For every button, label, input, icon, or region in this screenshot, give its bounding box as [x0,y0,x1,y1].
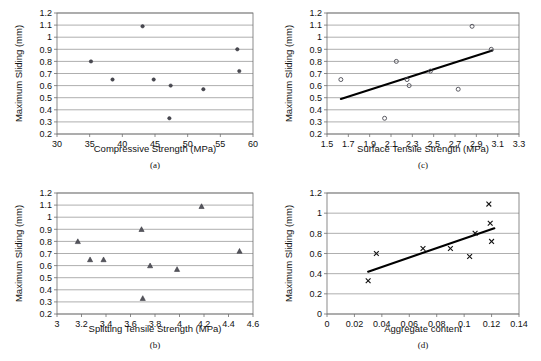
y-axis-title: Maximum Sliding (mm) [13,205,24,302]
y-tick-label: 0.7 [39,69,52,79]
data-series [89,25,241,120]
panel-caption: (d) [418,340,429,350]
x-tick-label: 3.3 [513,139,526,149]
y-tick-label: 1 [317,32,322,42]
x-axis-title: Compressive Strength (MPa) [94,143,216,154]
y-tick-label: 0.5 [39,93,52,103]
x-axis-title: Surface Tensile Strength (MPa) [357,143,489,154]
panel-d-plot: 00.20.40.60.811.200.020.040.060.080.10.1… [270,180,541,361]
y-tick-label: 1.1 [39,20,52,30]
y-tick-label: 0.4 [39,105,52,115]
data-point [339,78,343,82]
panel-caption: (c) [418,160,428,170]
panel-caption: (b) [150,340,161,350]
y-tick-label: 0.4 [309,269,322,279]
y-tick-label: 0.2 [39,129,52,139]
data-series [366,202,494,283]
data-point [101,257,106,262]
y-tick-label: 1.2 [309,8,322,18]
trend-line [341,51,492,99]
grid-lines [57,13,253,134]
y-tick-label: 0.7 [309,69,322,79]
y-tick-label: 0.4 [39,285,52,295]
x-tick-label: 3.1 [491,139,504,149]
y-tick-label: 0.8 [309,57,322,67]
y-tick-label: 0.8 [39,237,52,247]
y-tick-label: 0.5 [39,273,52,283]
data-point [236,48,239,51]
x-tick-label: 4.4 [222,319,235,329]
y-tick-label: 0.3 [39,297,52,307]
y-tick-label: 1 [47,32,52,42]
x-tick-label: 0 [324,319,329,329]
x-tick-label: 3.2 [75,319,88,329]
data-point [168,117,171,120]
data-point [467,254,472,259]
x-axis-title: Aggregate content [384,323,462,334]
data-point [486,202,491,207]
y-tick-label: 0.6 [309,249,322,259]
x-tick-label: 0.02 [346,319,364,329]
x-tick-label: 3 [54,319,59,329]
y-axis-ticks: 0.20.30.40.50.60.70.80.911.11.2 [39,8,57,139]
data-point [421,246,426,251]
data-point [488,221,493,226]
figure-container: 0.20.30.40.50.60.70.80.911.11.2303540455… [0,0,541,361]
data-series [75,204,242,301]
panel-c-plot: 0.20.30.40.50.60.70.80.911.11.21.51.71.9… [270,0,541,180]
y-tick-label: 0.9 [309,45,322,55]
data-point [448,246,453,251]
data-point [199,204,204,209]
panel-b-plot: 0.20.30.40.50.60.70.80.911.11.233.23.43.… [0,180,270,361]
data-point [169,84,172,87]
y-tick-label: 1.2 [39,8,52,18]
x-tick-label: 60 [248,139,258,149]
y-axis-title: Maximum Sliding (mm) [283,205,294,302]
y-tick-label: 0.2 [39,309,52,319]
panel-caption: (a) [150,160,160,170]
x-axis-title: Splitting Tensile Strength (MPa) [89,323,222,334]
data-point [383,116,387,120]
panel-a: 0.20.30.40.50.60.70.80.911.11.2303540455… [0,0,270,180]
y-tick-label: 0.5 [309,93,322,103]
x-tick-label: 1.7 [342,139,355,149]
panel-c: 0.20.30.40.50.60.70.80.911.11.21.51.71.9… [270,0,541,180]
y-tick-label: 1 [317,208,322,218]
y-tick-label: 1.1 [39,200,52,210]
y-tick-label: 0.8 [309,229,322,239]
x-tick-label: 30 [52,139,62,149]
trend-line [368,228,494,271]
panel-a-plot: 0.20.30.40.50.60.70.80.911.11.2303540455… [0,0,270,180]
grid-lines [57,193,253,314]
y-tick-label: 1 [47,212,52,222]
x-tick-label: 4.6 [247,319,260,329]
y-axis-title: Maximum Sliding (mm) [13,25,24,122]
y-tick-label: 0.2 [309,129,322,139]
data-point [152,78,155,81]
y-tick-label: 0 [317,309,322,319]
data-point [140,296,145,301]
y-axis-title: Maximum Sliding (mm) [283,25,294,122]
data-point [237,248,242,253]
panel-b: 0.20.30.40.50.60.70.80.911.11.233.23.43.… [0,180,270,361]
data-point [111,78,114,81]
y-tick-label: 0.9 [39,225,52,235]
x-tick-label: 0.12 [483,319,501,329]
y-tick-label: 0.4 [309,105,322,115]
y-tick-label: 0.9 [39,45,52,55]
data-point [456,87,460,91]
y-tick-label: 0.3 [309,117,322,127]
y-tick-label: 0.8 [39,57,52,67]
data-point [202,88,205,91]
data-series [339,24,493,120]
y-axis-ticks: 0.20.30.40.50.60.70.80.911.11.2 [309,8,327,139]
y-tick-label: 0.6 [39,261,52,271]
y-tick-label: 0.7 [39,249,52,259]
data-point [174,267,179,272]
data-point [366,278,371,283]
y-tick-label: 0.2 [309,289,322,299]
x-tick-label: 1.5 [321,139,334,149]
data-point [141,25,144,28]
data-point [87,257,92,262]
y-tick-label: 1.2 [39,188,52,198]
